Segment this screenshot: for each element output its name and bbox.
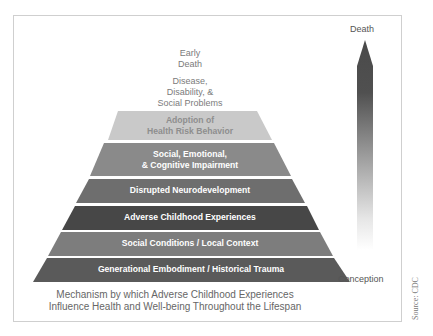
- layer-disrupted-label: Disrupted Neurodevelopment: [80, 185, 300, 196]
- layer-social-conditions-label: Social Conditions / Local Context: [50, 238, 330, 249]
- arrow-bottom-label: Conception: [338, 274, 384, 284]
- arrow-top-label: Death: [350, 24, 374, 34]
- layer-ace-label: Adverse Childhood Experiences: [65, 212, 315, 223]
- layer-generational-label: Generational Embodiment / Historical Tra…: [35, 264, 347, 275]
- label-disease: Disease, Disability, & Social Problems: [130, 76, 250, 109]
- lifespan-arrow-icon: [357, 40, 373, 250]
- diagram-caption: Mechanism by which Adverse Childhood Exp…: [20, 289, 330, 313]
- layer-social-emotional-label: Social, Emotional, & Cognitive Impairmen…: [95, 149, 285, 171]
- source-credit: Source: CDC: [411, 277, 420, 320]
- layer-adoption-label: Adoption of Health Risk Behavior: [110, 115, 270, 137]
- label-early-death: Early Death: [140, 48, 240, 70]
